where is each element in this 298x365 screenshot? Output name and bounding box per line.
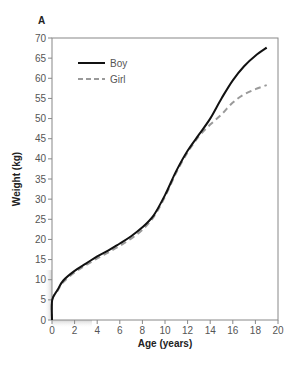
y-tick-label: 15 <box>35 254 47 265</box>
y-axis-title: Weight (kg) <box>11 152 22 206</box>
plot-series <box>52 48 267 320</box>
y-tick-label: 35 <box>35 174 47 185</box>
x-tick-label: 20 <box>272 325 284 336</box>
x-tick-label: 12 <box>182 325 194 336</box>
x-tick-label: 14 <box>205 325 217 336</box>
y-tick-label: 5 <box>40 294 46 305</box>
x-tick-label: 2 <box>72 325 78 336</box>
y-tick-label: 25 <box>35 214 47 225</box>
x-tick-label: 18 <box>250 325 262 336</box>
x-tick-label: 4 <box>94 325 100 336</box>
legend-boy-label: Boy <box>110 58 127 69</box>
y-tick-label: 60 <box>35 73 47 84</box>
weight-for-age-chart: A 0510152025303540455055606570 024681012… <box>0 0 298 365</box>
y-tick-label: 65 <box>35 53 47 64</box>
x-tick-label: 8 <box>140 325 146 336</box>
x-tick-label: 16 <box>227 325 239 336</box>
y-tick-label: 30 <box>35 194 47 205</box>
y-tick-label: 50 <box>35 113 47 124</box>
plot-frame <box>52 38 278 320</box>
x-tick-label: 10 <box>159 325 171 336</box>
y-tick-label: 0 <box>40 315 46 326</box>
y-tick-label: 40 <box>35 153 47 164</box>
x-axis-title: Age (years) <box>138 338 192 349</box>
panel-label: A <box>38 15 45 26</box>
y-tick-label: 20 <box>35 234 47 245</box>
x-tick-label: 0 <box>49 325 55 336</box>
y-tick-label: 70 <box>35 33 47 44</box>
y-tick-label: 45 <box>35 133 47 144</box>
x-tick-label: 6 <box>117 325 123 336</box>
series-line-girl <box>52 85 267 320</box>
series-line-boy <box>52 48 267 320</box>
plot-border <box>52 38 278 320</box>
y-tick-label: 55 <box>35 93 47 104</box>
legend-girl-label: Girl <box>110 74 126 85</box>
y-tick-label: 10 <box>35 274 47 285</box>
legend: Boy Girl <box>78 58 127 85</box>
